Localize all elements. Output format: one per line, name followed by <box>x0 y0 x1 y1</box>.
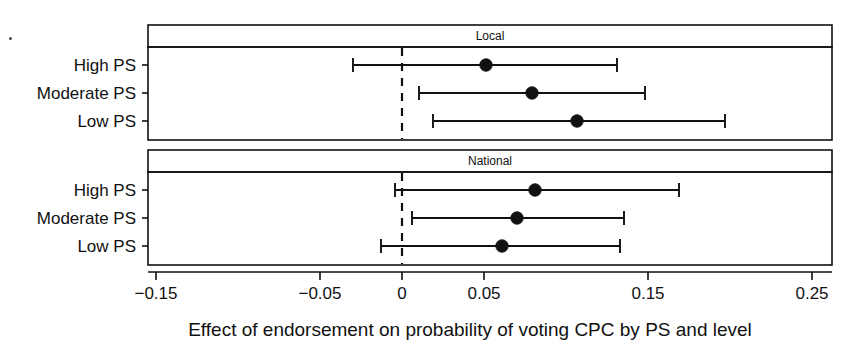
forest-plot-figure: Local High PS Moderate PS Low PS <box>0 0 854 351</box>
point-estimate-national-low <box>496 240 508 252</box>
ylabel-national-low: Low PS <box>77 237 136 256</box>
x-axis-title: Effect of endorsement on probability of … <box>188 319 752 340</box>
ylabel-local-low: Low PS <box>77 112 136 131</box>
xticklabel-0: 0 <box>397 284 406 303</box>
point-estimate-national-high <box>529 184 541 196</box>
point-estimate-local-low <box>571 115 583 127</box>
interval-national-moderate <box>412 211 624 225</box>
xticklabel--0.15: −0.15 <box>134 284 177 303</box>
ylabel-national-moderate: Moderate PS <box>37 209 136 228</box>
xticklabel-0.25: 0.25 <box>795 284 828 303</box>
panel-local: Local High PS Moderate PS Low PS <box>37 25 832 140</box>
scan-artifact-dot <box>9 37 12 40</box>
ylabel-national-high: High PS <box>74 181 136 200</box>
interval-national-high <box>395 183 679 197</box>
xticklabel--0.05: −0.05 <box>298 284 341 303</box>
panel-strip-label-national: National <box>468 154 512 168</box>
xticklabel-0.15: 0.15 <box>631 284 664 303</box>
point-estimate-local-high <box>480 59 492 71</box>
ylabel-local-high: High PS <box>74 56 136 75</box>
xticklabel-0.05: 0.05 <box>467 284 500 303</box>
point-estimate-local-moderate <box>526 87 538 99</box>
ylabel-local-moderate: Moderate PS <box>37 84 136 103</box>
panel-strip-label-local: Local <box>476 29 505 43</box>
interval-local-high <box>353 58 617 72</box>
interval-local-moderate <box>419 86 645 100</box>
interval-national-low <box>381 239 620 253</box>
panel-national: National High PS Moderate PS Low PS <box>37 150 832 265</box>
interval-local-low <box>433 114 725 128</box>
chart-canvas: Local High PS Moderate PS Low PS <box>0 0 854 351</box>
x-axis: −0.15 −0.05 0 0.05 0.15 0.25 Effect of e… <box>134 272 832 340</box>
point-estimate-national-moderate <box>511 212 523 224</box>
